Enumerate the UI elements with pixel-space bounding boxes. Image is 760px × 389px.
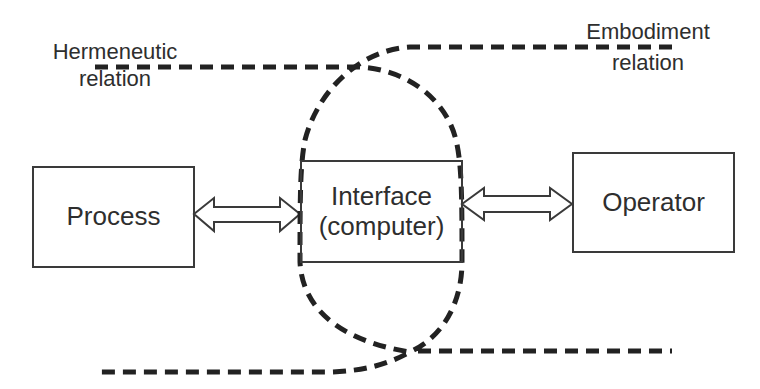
operator-box: Operator [572, 152, 735, 253]
hermeneutic-label-line1: Hermeneutic [30, 40, 200, 65]
embodiment-label-line2: relation [568, 51, 728, 76]
interface-label-line1: Interface [331, 182, 432, 211]
double-arrow-process-interface [194, 198, 300, 231]
embodiment-label-line1: Embodiment [568, 20, 728, 45]
interface-box: Interface (computer) [300, 160, 463, 263]
double-arrow-interface-operator [462, 188, 572, 220]
hermeneutic-label-line2: relation [30, 67, 200, 92]
hermeneutic-relation-label: Hermeneutic relation [30, 40, 200, 91]
process-box: Process [32, 166, 195, 268]
diagram-canvas: Process Interface (computer) Operator He… [0, 0, 760, 389]
process-label: Process [67, 202, 161, 231]
operator-label: Operator [602, 188, 705, 217]
embodiment-relation-label: Embodiment relation [568, 20, 728, 75]
interface-label-line2: (computer) [319, 212, 445, 241]
